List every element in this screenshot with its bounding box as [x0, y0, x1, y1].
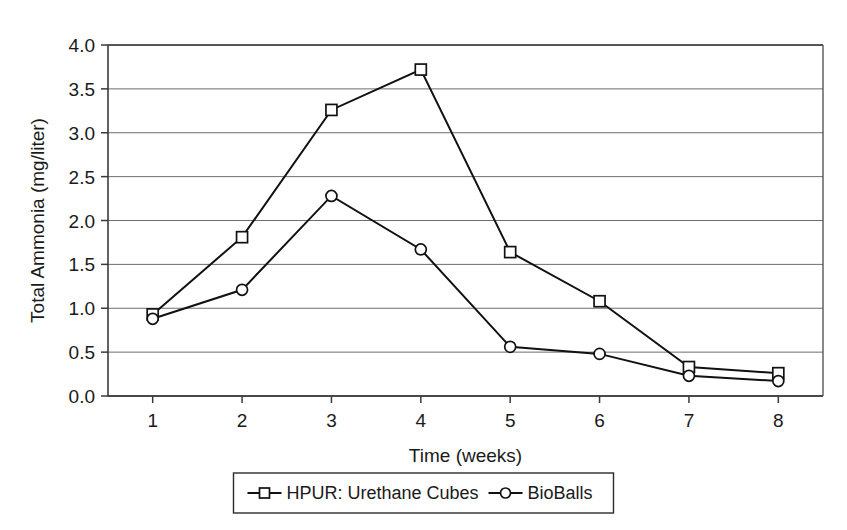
y-tick-label: 0.5	[69, 342, 95, 363]
x-tick-label: 5	[505, 410, 516, 431]
y-tick-label: 3.5	[69, 79, 95, 100]
y-tick-label: 2.5	[69, 167, 95, 188]
chart-container: 0.00.51.01.52.02.53.03.54.0 12345678 Tim…	[0, 0, 847, 530]
x-tick-label: 3	[326, 410, 337, 431]
square-marker	[415, 64, 426, 75]
square-marker	[237, 232, 248, 243]
y-tick-label: 1.5	[69, 254, 95, 275]
legend-label-2: BioBalls	[528, 483, 593, 503]
circle-marker	[501, 488, 511, 498]
x-tick-label: 1	[147, 410, 158, 431]
x-tick-label: 8	[773, 410, 784, 431]
data-series-group	[147, 64, 784, 387]
y-tick-label: 4.0	[69, 35, 95, 56]
square-marker	[326, 104, 337, 115]
legend-label-1: HPUR: Urethane Cubes	[287, 483, 479, 503]
x-axis-title: Time (weeks)	[409, 445, 522, 466]
circle-marker	[683, 370, 694, 381]
x-tick-label: 7	[684, 410, 695, 431]
circle-marker	[237, 284, 248, 295]
line-chart: 0.00.51.01.52.02.53.03.54.0 12345678 Tim…	[0, 0, 847, 530]
y-tick-label: 1.0	[69, 298, 95, 319]
y-axis-title: Total Ammonia (mg/liter)	[27, 118, 48, 323]
x-tick-label: 6	[594, 410, 605, 431]
x-axis-ticks: 12345678	[147, 396, 783, 431]
square-marker	[505, 247, 516, 258]
circle-marker	[594, 348, 605, 359]
circle-marker	[415, 244, 426, 255]
gridlines-group	[108, 45, 823, 396]
square-marker	[594, 296, 605, 307]
y-tick-label: 0.0	[69, 386, 95, 407]
square-marker	[260, 488, 270, 498]
circle-marker	[505, 341, 516, 352]
x-tick-label: 2	[237, 410, 248, 431]
series-line-1	[153, 70, 779, 374]
chart-legend: HPUR: Urethane CubesBioBalls	[234, 473, 614, 513]
circle-marker	[773, 376, 784, 387]
y-tick-label: 2.0	[69, 211, 95, 232]
y-axis-ticks: 0.00.51.01.52.02.53.03.54.0	[69, 35, 108, 407]
axis-labels-group: Time (weeks)Total Ammonia (mg/liter)	[27, 118, 522, 466]
x-tick-label: 4	[416, 410, 427, 431]
circle-marker	[326, 190, 337, 201]
circle-marker	[147, 313, 158, 324]
y-tick-label: 3.0	[69, 123, 95, 144]
